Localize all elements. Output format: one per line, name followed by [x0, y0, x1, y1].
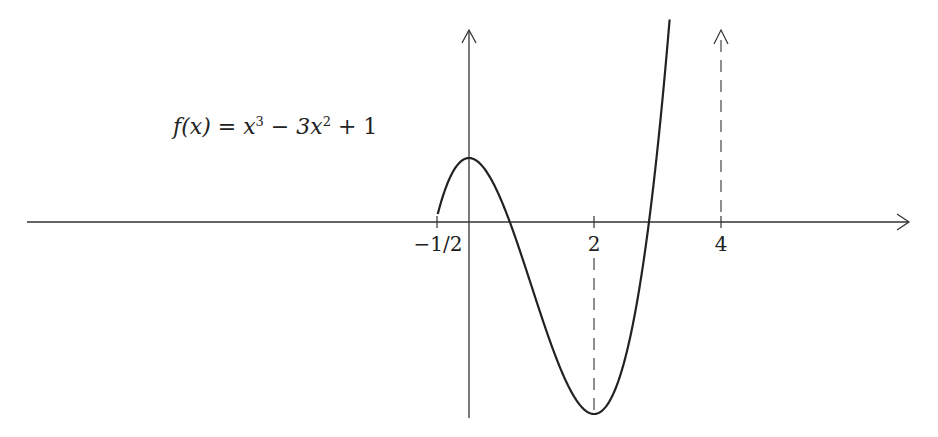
- function-label-mid: − 3x: [264, 114, 323, 139]
- function-label-lhs: f(x) = x: [173, 114, 256, 139]
- function-plot: −1/2 2 4: [0, 0, 938, 437]
- exponent-2: 2: [323, 114, 331, 129]
- tick-label-neg-half: −1/2: [414, 232, 463, 256]
- function-label: f(x) = x3 − 3x2 + 1: [173, 114, 377, 139]
- tick-label-2: 2: [588, 232, 601, 256]
- function-label-tail: + 1: [331, 114, 377, 139]
- tick-label-4: 4: [715, 232, 728, 256]
- exponent-3: 3: [256, 114, 264, 129]
- function-curve: [438, 20, 670, 414]
